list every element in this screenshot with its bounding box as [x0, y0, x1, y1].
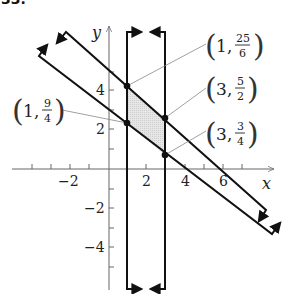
y-tick-label: 2: [96, 121, 105, 137]
svg-text:,: ,: [227, 79, 232, 99]
svg-text:(: (: [205, 28, 217, 63]
svg-text:,: ,: [227, 36, 232, 56]
point-label-p4: ( 1 , 9 4 ): [12, 93, 66, 128]
svg-text:1: 1: [23, 101, 34, 121]
svg-text:(: (: [205, 116, 217, 151]
svg-text:3: 3: [216, 124, 227, 144]
svg-text:9: 9: [44, 97, 51, 110]
svg-text:): ): [54, 93, 66, 128]
svg-text:(: (: [12, 93, 24, 128]
svg-text:,: ,: [34, 101, 39, 121]
svg-text:3: 3: [237, 120, 244, 133]
x-tick-label: −2: [58, 173, 79, 189]
vertical-boundaries: [127, 32, 165, 289]
svg-text:): ): [253, 28, 265, 63]
svg-text:4: 4: [44, 112, 51, 125]
x-axis-label: x: [262, 174, 271, 193]
y-tick-label: −4: [84, 239, 105, 255]
y-tick-label: 4: [96, 82, 105, 98]
svg-text:3: 3: [216, 79, 227, 99]
svg-text:25: 25: [236, 32, 250, 45]
problem-number: 33.: [1, 0, 26, 7]
point-label-p3: ( 3 , 3 4 ): [205, 116, 259, 151]
point-label-p1: ( 1 , 25 6 ): [205, 28, 265, 63]
inequality-graph: 33. −2 2 4 6 x: [0, 0, 284, 294]
svg-text:4: 4: [237, 135, 244, 148]
vertex-point: [162, 152, 169, 159]
x-tick-label: 2: [142, 173, 151, 189]
right-vertical-line: [152, 32, 165, 289]
y-tick-label: −2: [84, 200, 105, 216]
svg-text:2: 2: [237, 90, 244, 103]
y-axis: 4 2 −2 −4 y: [84, 23, 114, 290]
left-vertical-line: [127, 32, 140, 289]
svg-text:,: ,: [227, 124, 232, 144]
y-axis-label: y: [91, 23, 102, 42]
svg-text:(: (: [205, 71, 217, 106]
vertex-point: [162, 115, 169, 122]
svg-text:6: 6: [239, 47, 246, 60]
svg-text:5: 5: [237, 75, 244, 88]
vertex-point: [124, 83, 131, 90]
svg-text:): ): [247, 71, 259, 106]
x-axis: −2 2 4 6 x: [12, 164, 274, 193]
point-label-p2: ( 3 , 5 2 ): [205, 71, 259, 106]
vertex-point: [124, 120, 131, 127]
svg-text:1: 1: [216, 36, 227, 56]
shaded-region: [127, 86, 165, 155]
svg-text:): ): [247, 116, 259, 151]
x-tick-label: 4: [181, 173, 190, 189]
